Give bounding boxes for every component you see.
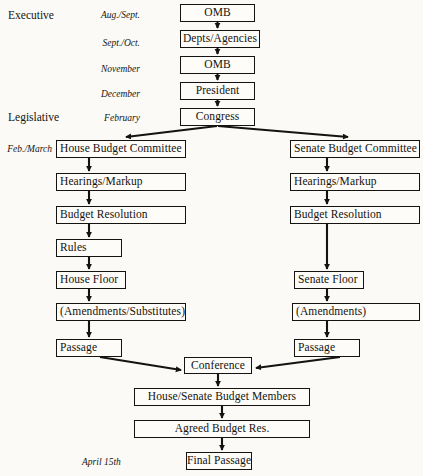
node-omb-1[interactable]: OMB xyxy=(180,4,255,22)
period-label-aug-sept: Aug./Sept. xyxy=(84,10,140,20)
node-congress[interactable]: Congress xyxy=(180,108,255,126)
node-final-passage[interactable]: Final Passage xyxy=(186,452,252,470)
node-house-budget-resolution[interactable]: Budget Resolution xyxy=(56,206,186,224)
node-house-senate-budget-members[interactable]: House/Senate Budget Members xyxy=(134,388,310,406)
period-label-feb-march: Feb./March xyxy=(2,144,52,154)
arrow-congress-to-house-committee xyxy=(126,126,217,137)
period-label-december: December xyxy=(80,89,140,99)
arrow-house-passage-to-conference xyxy=(100,357,181,370)
node-senate-floor[interactable]: Senate Floor xyxy=(294,271,364,289)
node-senate-amendments[interactable]: (Amendments) xyxy=(292,303,420,321)
period-label-april-15: April 15th xyxy=(82,457,138,467)
node-house-floor[interactable]: House Floor xyxy=(56,271,126,289)
node-depts-agencies[interactable]: Depts/Agencies xyxy=(180,30,260,48)
node-conference[interactable]: Conference xyxy=(184,357,252,374)
node-president[interactable]: President xyxy=(180,82,255,100)
arrow-senate-passage-to-conference xyxy=(256,357,340,368)
period-label-sept-oct: Sept./Oct. xyxy=(84,38,140,48)
node-agreed-budget-res[interactable]: Agreed Budget Res. xyxy=(134,420,310,438)
node-senate-passage[interactable]: Passage xyxy=(294,339,360,357)
node-rules[interactable]: Rules xyxy=(56,239,122,257)
node-omb-2[interactable]: OMB xyxy=(180,56,255,74)
arrow-congress-to-senate-committee xyxy=(218,126,348,137)
node-senate-budget-resolution[interactable]: Budget Resolution xyxy=(290,206,420,224)
node-house-budget-committee[interactable]: House Budget Committee xyxy=(56,140,186,158)
node-senate-budget-committee[interactable]: Senate Budget Committee xyxy=(290,140,420,158)
branch-label-legislative: Legislative xyxy=(8,111,59,123)
budget-process-flowchart: Executive Legislative Aug./Sept. Sept./O… xyxy=(0,0,423,476)
period-label-november: November xyxy=(80,64,140,74)
branch-label-executive: Executive xyxy=(8,9,54,21)
node-house-hearings-markup[interactable]: Hearings/Markup xyxy=(56,173,186,191)
node-senate-hearings-markup[interactable]: Hearings/Markup xyxy=(290,173,420,191)
period-label-february: February xyxy=(80,113,140,123)
node-house-amendments-substitutes[interactable]: (Amendments/Substitutes) xyxy=(56,303,186,321)
node-house-passage[interactable]: Passage xyxy=(56,339,122,357)
